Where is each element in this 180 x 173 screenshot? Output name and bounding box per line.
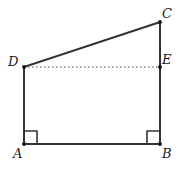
vertex-dot-D xyxy=(22,65,26,69)
vertex-label-D: D xyxy=(8,55,18,68)
geometry-figure: ABCDE xyxy=(0,0,180,173)
vertex-dots-group xyxy=(22,20,162,146)
vertex-label-E: E xyxy=(162,53,172,66)
vertex-dot-A xyxy=(22,142,26,146)
right-angle-markers-group xyxy=(24,131,160,144)
vertex-label-A: A xyxy=(13,147,22,160)
segments-group xyxy=(24,22,160,144)
right-angle-marker-B xyxy=(147,131,160,144)
segment-DC xyxy=(24,22,160,67)
right-angle-marker-A xyxy=(24,131,37,144)
figure-canvas xyxy=(0,0,180,173)
vertex-label-C: C xyxy=(162,7,172,20)
vertex-label-B: B xyxy=(162,147,172,160)
